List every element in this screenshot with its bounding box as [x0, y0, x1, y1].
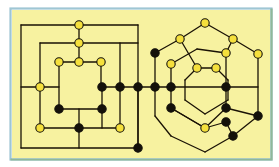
graph-node-open: [116, 124, 124, 132]
graph-node-filled: [134, 83, 142, 91]
graph-node-filled: [222, 118, 230, 126]
graph-node-open: [75, 39, 83, 47]
figure-root: [0, 0, 279, 167]
graph-node-open: [222, 49, 230, 57]
graph-node-open: [97, 58, 105, 66]
graph-node-open: [36, 83, 44, 91]
graph-diagram-canvas: [0, 0, 279, 167]
graph-node-open: [229, 35, 237, 43]
graph-node-open: [254, 50, 262, 58]
graph-node-filled: [151, 83, 159, 91]
graph-node-filled: [167, 83, 175, 91]
graph-node-filled: [229, 132, 237, 140]
graph-node-filled: [55, 105, 63, 113]
graph-node-filled: [116, 83, 124, 91]
graph-node-open: [75, 58, 83, 66]
graph-node-open: [36, 124, 44, 132]
graph-node-open: [167, 60, 175, 68]
graph-node-open: [201, 124, 209, 132]
graph-node-open: [193, 64, 201, 72]
graph-node-open: [212, 64, 220, 72]
graph-node-open: [176, 35, 184, 43]
graph-node-filled: [222, 83, 230, 91]
graph-node-filled: [151, 49, 159, 57]
graph-node-filled: [134, 144, 142, 152]
graph-node-filled: [167, 104, 175, 112]
graph-node-open: [201, 19, 209, 27]
graph-node-open: [55, 58, 63, 66]
graph-node-filled: [98, 83, 106, 91]
graph-node-filled: [254, 112, 262, 120]
graph-node-filled: [75, 124, 83, 132]
graph-node-filled: [222, 104, 230, 112]
graph-node-filled: [98, 105, 106, 113]
graph-node-open: [75, 21, 83, 29]
